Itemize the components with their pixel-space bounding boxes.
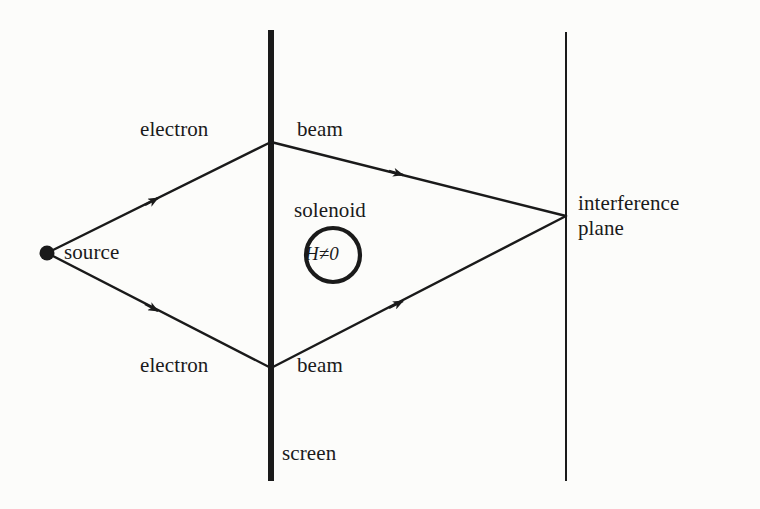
label-solenoid: solenoid	[294, 198, 366, 223]
arrow-upper-left-icon	[145, 198, 158, 205]
label-interference-plane: interference plane	[578, 191, 748, 241]
source-point-icon	[40, 246, 55, 261]
label-electron-bottom: electron	[140, 353, 208, 378]
arrow-lower-left-icon	[145, 304, 158, 311]
beam-upper-left-line	[47, 142, 271, 253]
label-field-condition: H≠0	[305, 243, 339, 265]
beam-lower-right-line	[271, 216, 566, 368]
arrow-lower-right-icon	[389, 301, 403, 308]
label-interference-line1: interference	[578, 191, 679, 215]
label-interference-line2: plane	[578, 216, 624, 240]
label-source: source	[64, 240, 119, 265]
figure-canvas: electron beam source solenoid H≠0 electr…	[0, 0, 760, 509]
beam-lower-left-line	[47, 253, 271, 368]
label-beam-bottom: beam	[297, 353, 343, 378]
label-screen: screen	[282, 441, 336, 466]
label-beam-top: beam	[297, 117, 343, 142]
label-electron-top: electron	[140, 117, 208, 142]
